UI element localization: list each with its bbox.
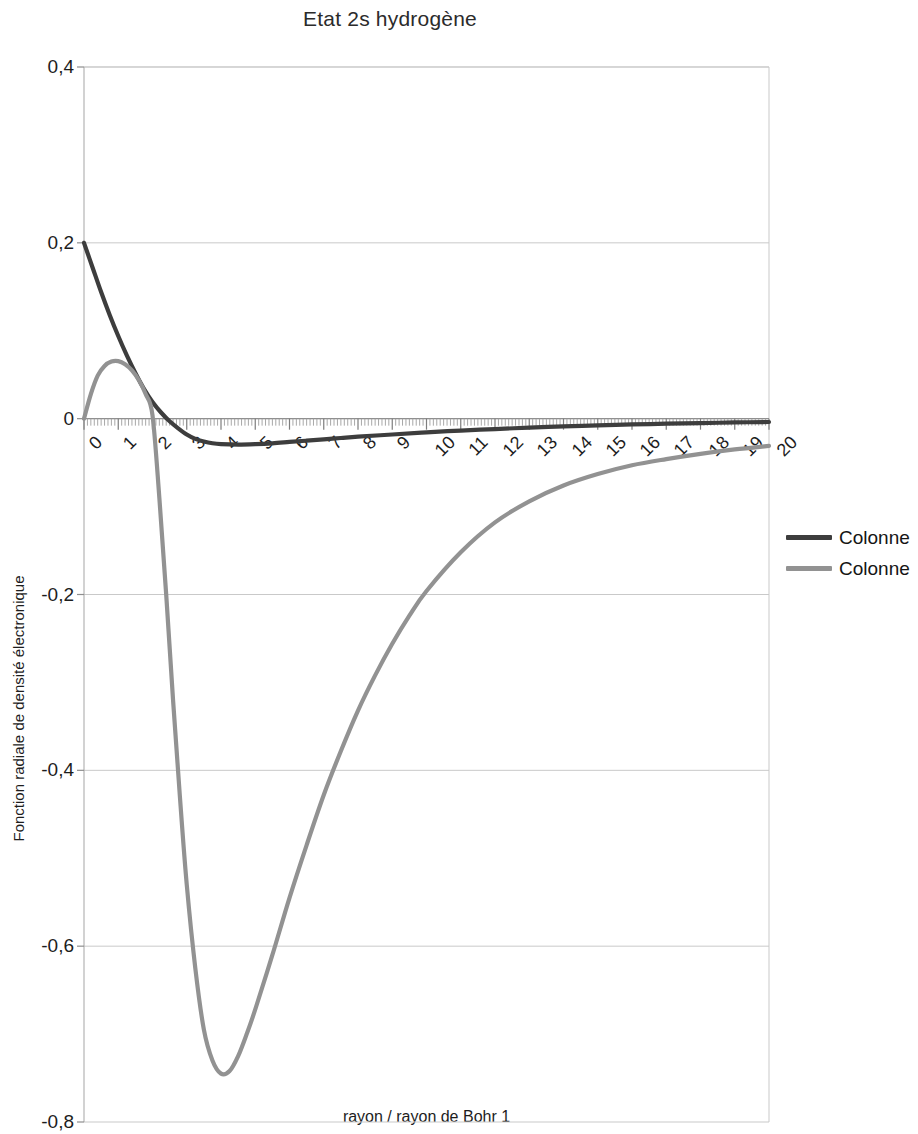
chart-legend: Colonne Colonne	[786, 522, 918, 584]
chart-container: Etat 2s hydrogène Fonction radiale de de…	[0, 0, 918, 1134]
legend-item[interactable]: Colonne	[786, 522, 918, 553]
legend-color-swatch	[786, 535, 832, 540]
data-series-line-2	[84, 361, 769, 1075]
legend-item[interactable]: Colonne	[786, 553, 918, 584]
legend-item-label: Colonne	[839, 558, 910, 580]
plot-area	[0, 0, 918, 1134]
legend-item-label: Colonne	[839, 527, 910, 549]
legend-color-swatch	[786, 566, 832, 571]
data-series-line-1	[84, 243, 769, 445]
